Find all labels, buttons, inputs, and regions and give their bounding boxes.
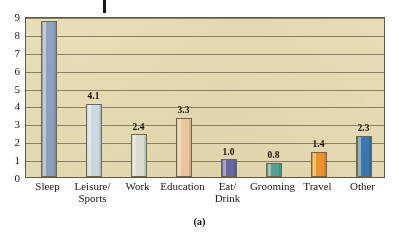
bar-value-label: 4.1 [88, 92, 100, 102]
x-tick-label-line1: Education [160, 180, 205, 192]
y-tick-label: 2 [15, 137, 21, 148]
y-tick-label: 5 [15, 83, 21, 94]
bar-column: 2.3 [356, 17, 372, 177]
x-tick-label: Other [350, 180, 375, 192]
y-tick-label: 8 [15, 29, 21, 40]
bar-column: 2.4 [131, 17, 147, 177]
bar [41, 21, 57, 177]
bar-column: 1.4 [311, 17, 327, 177]
plot-area: 8.74.12.43.31.00.81.42.3 [25, 17, 385, 178]
x-tick-label-line1: Eat/ [219, 180, 237, 192]
bar-column: 1.0 [221, 17, 237, 177]
y-tick-label: 4 [15, 101, 21, 112]
x-tick-label-line1: Travel [303, 180, 331, 192]
x-tick-label: Eat/Drink [215, 180, 241, 204]
bar-value-label: 8.7 [43, 17, 55, 19]
x-tick-label-line2: Drink [215, 192, 241, 204]
y-tick-label: 0 [15, 173, 21, 184]
x-tick-label: Grooming [250, 180, 295, 192]
bar-column: 4.1 [86, 17, 102, 177]
y-tick-label: 1 [15, 155, 21, 166]
bar-column: 8.7 [41, 17, 57, 177]
y-axis: 0123456789 [0, 17, 23, 178]
x-tick-label-line1: Sleep [35, 180, 59, 192]
x-tick-label: Leisure/Sports [74, 180, 110, 204]
page-tick-mark [103, 0, 106, 13]
x-tick-label-line1: Grooming [250, 180, 295, 192]
bar [266, 163, 282, 177]
bar-value-label: 3.3 [178, 106, 190, 116]
x-tick-label: Travel [303, 180, 331, 192]
y-tick-label: 7 [15, 47, 21, 58]
bar [356, 136, 372, 177]
y-tick-label: 3 [15, 119, 21, 130]
x-tick-label-line2: Sports [74, 192, 110, 204]
bar [311, 152, 327, 177]
y-tick-label: 6 [15, 65, 21, 76]
x-tick-label: Sleep [35, 180, 59, 192]
bar [86, 104, 102, 177]
bar-column: 3.3 [176, 17, 192, 177]
bar [131, 134, 147, 177]
x-tick-label-line1: Leisure/ [74, 180, 110, 192]
x-tick-label-line1: Work [125, 180, 149, 192]
bar [221, 159, 237, 177]
x-tick-label: Work [125, 180, 149, 192]
y-tick-label: 9 [15, 12, 21, 23]
bar-column: 0.8 [266, 17, 282, 177]
x-tick-label-line1: Other [350, 180, 375, 192]
x-tick-label: Education [160, 180, 205, 192]
bar [176, 118, 192, 177]
bar-value-label: 2.3 [358, 124, 370, 134]
bar-value-label: 1.0 [223, 148, 235, 158]
figure-caption: (a) [0, 216, 399, 227]
bar-value-label: 2.4 [133, 123, 145, 133]
bar-chart-figure: 0123456789 8.74.12.43.31.00.81.42.3 Slee… [0, 0, 399, 238]
bar-series: 8.74.12.43.31.00.81.42.3 [26, 18, 384, 177]
bar-value-label: 1.4 [313, 140, 325, 150]
x-axis: SleepLeisure/SportsWorkEducationEat/Drin… [25, 180, 385, 220]
bar-value-label: 0.8 [268, 151, 280, 161]
